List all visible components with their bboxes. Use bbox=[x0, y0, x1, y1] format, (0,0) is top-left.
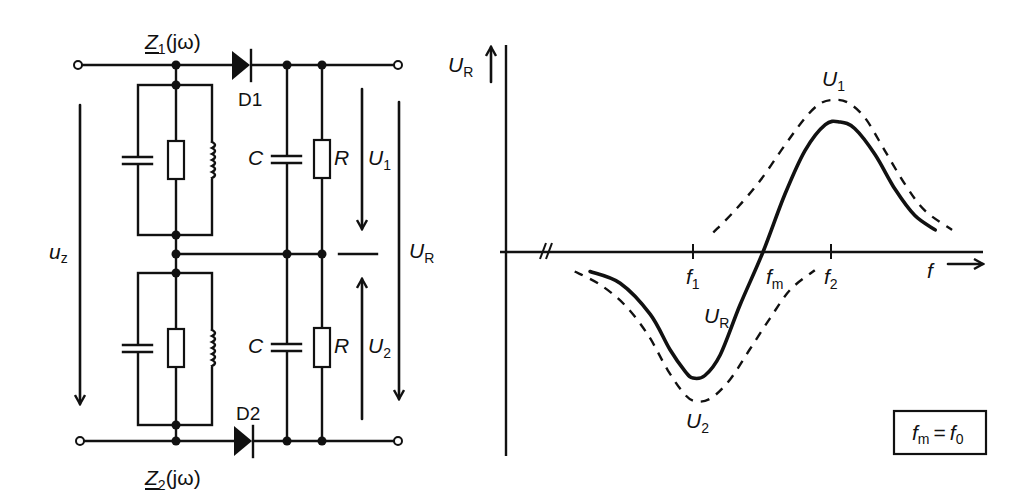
resistor-bottom-label: R bbox=[334, 334, 349, 357]
voltage-ur-label: UR bbox=[409, 239, 434, 266]
diode-d1-label: D1 bbox=[238, 89, 262, 110]
output-terminal-top bbox=[394, 61, 402, 69]
capacitor-icon bbox=[272, 156, 302, 164]
capacitor-top-label: C bbox=[248, 146, 264, 169]
inductor-icon bbox=[206, 330, 218, 367]
diode-d1-icon bbox=[232, 50, 251, 81]
resistor-icon bbox=[168, 141, 184, 179]
capacitor-icon bbox=[272, 344, 302, 352]
resistor-top-label: R bbox=[334, 146, 349, 169]
note-box: fm=f0 bbox=[894, 411, 986, 454]
voltage-u2-label: U2 bbox=[368, 334, 391, 361]
input-terminal-top bbox=[74, 61, 82, 69]
tick-label-fm: fm bbox=[766, 265, 784, 292]
impedance-z1-network bbox=[123, 65, 218, 240]
diode-d2-label: D2 bbox=[236, 403, 260, 424]
capacitor-icon bbox=[123, 157, 154, 165]
resistor-icon bbox=[314, 328, 330, 367]
curve-label-ur: UR bbox=[704, 304, 729, 331]
curve-label-u1: U1 bbox=[822, 67, 845, 94]
curve-ur-solid bbox=[590, 121, 935, 378]
x-axis-label: f bbox=[927, 259, 935, 282]
inductor-icon bbox=[206, 142, 218, 179]
resistor-icon bbox=[168, 329, 184, 367]
middle-rail bbox=[172, 235, 378, 273]
voltage-uz-label: uz bbox=[49, 240, 68, 266]
input-terminal-bottom bbox=[76, 437, 84, 445]
tick-label-f2: f2 bbox=[824, 265, 838, 292]
figure: D1 Z1(jω) bbox=[0, 0, 1036, 502]
resistor-icon bbox=[314, 140, 330, 178]
capacitor-bottom-label: C bbox=[248, 334, 264, 357]
y-axis-label: UR bbox=[448, 53, 473, 80]
voltage-u1-label: U1 bbox=[368, 146, 391, 173]
capacitor-icon bbox=[123, 345, 154, 353]
curve-label-u2: U2 bbox=[686, 409, 709, 436]
diode-d2-icon bbox=[234, 426, 253, 457]
frequency-response-chart: UR f f1 fm f2 U1 UR U2 fm=f0 bbox=[448, 45, 986, 456]
circuit-diagram: D1 Z1(jω) bbox=[49, 30, 434, 493]
impedance-z2-network bbox=[123, 269, 218, 442]
output-terminal-bottom bbox=[394, 437, 402, 445]
tick-label-f1: f1 bbox=[686, 265, 700, 292]
